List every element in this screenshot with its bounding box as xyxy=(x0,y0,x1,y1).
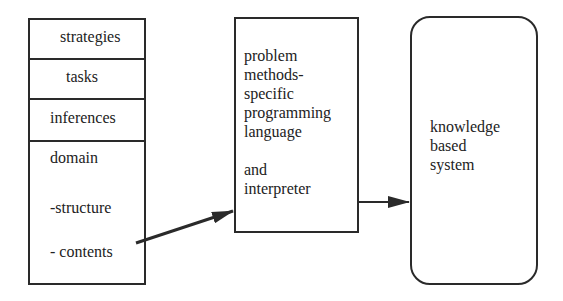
arrows-layer xyxy=(0,0,563,301)
arrow-contents-to-language xyxy=(136,211,233,243)
